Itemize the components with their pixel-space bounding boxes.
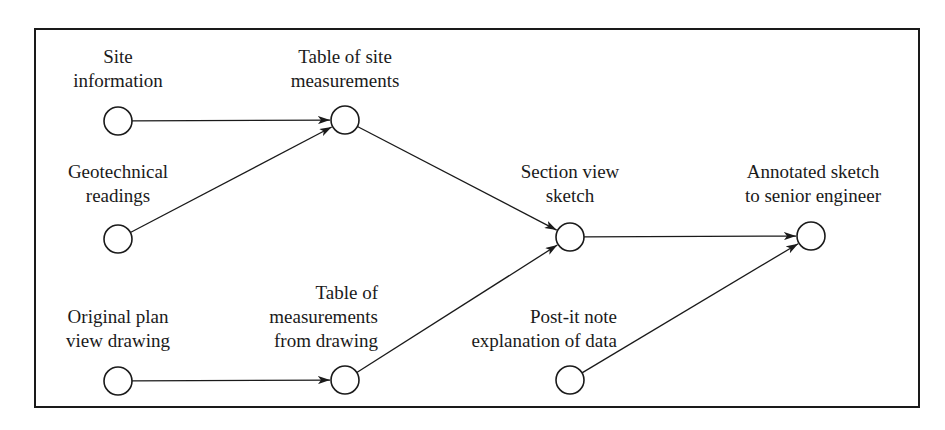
label-line: Section view (521, 160, 620, 184)
label-table-of-site-measurements: Table of site measurements (291, 45, 400, 93)
label-line: information (73, 69, 163, 93)
label-post-it-note: Post-it note explanation of data (471, 305, 617, 353)
arrow-original_plan_view_drawing-to-table_of_measurements_from_drawing (132, 380, 330, 381)
arrow-section_view_sketch-to-annotated_sketch (584, 236, 796, 237)
node-site-information (104, 107, 132, 135)
node-section-view-sketch (556, 223, 584, 251)
node-table-of-measurements-from-drawing (331, 366, 359, 394)
node-annotated-sketch (797, 222, 825, 250)
node-post-it-note (556, 366, 584, 394)
label-line: explanation of data (471, 329, 617, 353)
label-line: Table of site (291, 45, 400, 69)
label-original-plan-view-drawing: Original plan view drawing (66, 305, 170, 353)
label-site-information: Site information (73, 45, 163, 93)
node-geotechnical-readings (104, 225, 132, 253)
arrow-site_information-to-table_of_site_measurements (132, 120, 330, 121)
label-geotechnical-readings: Geotechnical readings (68, 160, 168, 208)
label-line: Table of (269, 281, 378, 305)
label-line: readings (68, 184, 168, 208)
label-annotated-sketch: Annotated sketch to senior engineer (745, 160, 881, 208)
label-line: Site (73, 45, 163, 69)
label-line: Geotechnical (68, 160, 168, 184)
label-line: measurements (269, 305, 378, 329)
label-table-of-measurements-from-drawing: Table of measurements from drawing (269, 281, 378, 353)
label-line: to senior engineer (745, 184, 881, 208)
label-section-view-sketch: Section view sketch (521, 160, 620, 208)
label-line: measurements (291, 69, 400, 93)
label-line: Original plan (66, 305, 170, 329)
label-line: Post-it note (471, 305, 617, 329)
label-line: view drawing (66, 329, 170, 353)
label-line: Annotated sketch (745, 160, 881, 184)
node-table-of-site-measurements (331, 106, 359, 134)
label-line: from drawing (269, 329, 378, 353)
label-line: sketch (521, 184, 620, 208)
node-original-plan-view-drawing (104, 367, 132, 395)
